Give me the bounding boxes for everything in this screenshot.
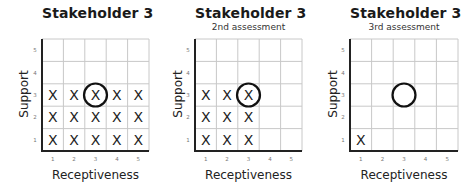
y-tick-label: 5 — [341, 47, 345, 53]
grid-chart: 1234512345X — [0, 0, 476, 191]
y-tick-label: 3 — [341, 92, 345, 98]
x-tick-label: 1 — [359, 156, 363, 162]
x-tick-label: 5 — [445, 156, 449, 162]
y-tick-label: 2 — [341, 114, 345, 120]
x-tick-label: 4 — [424, 156, 428, 162]
x-mark: X — [356, 132, 366, 148]
x-tick-label: 3 — [402, 156, 406, 162]
x-tick-label: 2 — [381, 156, 385, 162]
y-tick-label: 1 — [341, 137, 345, 143]
y-tick-label: 4 — [341, 70, 345, 76]
panel-3: Stakeholder 3 3rd assessment Support Rec… — [0, 0, 476, 191]
target-circle — [393, 84, 416, 107]
